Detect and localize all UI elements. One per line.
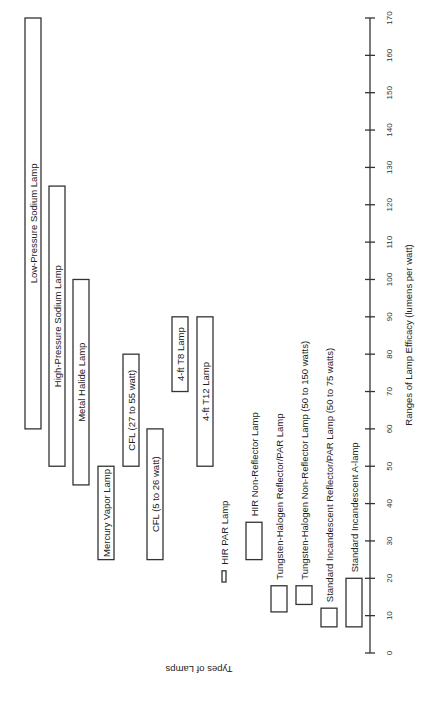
- bar-label: Tungsten-Halogen Reflector/PAR Lamp: [274, 413, 285, 579]
- range-bar: [321, 608, 337, 627]
- bar-label: Standard Incandescent Reflector/PAR Lamp…: [324, 348, 335, 602]
- tick-label: 70: [385, 387, 394, 396]
- tick-label: 130: [385, 160, 394, 174]
- category-axis-title: Types of Lamps: [165, 664, 232, 675]
- tick-label: 110: [385, 235, 394, 248]
- bar-label: CFL (27 to 55 watt): [126, 370, 137, 451]
- tick-label: 100: [385, 272, 394, 286]
- bar-label: Metal Halide Lamp: [76, 343, 87, 422]
- bar-label: High-Pressure Sodium Lamp: [52, 265, 63, 387]
- tick-label: 160: [385, 48, 394, 62]
- bar-label: Standard Incandescent A-lamp: [349, 442, 360, 572]
- bar-label: 4-ft T8 Lamp: [175, 327, 186, 381]
- bar-label: 4-ft T12 Lamp: [200, 362, 211, 421]
- bar-label: Mercury Vapor Lamp: [101, 469, 112, 557]
- tick-label: 0: [385, 650, 394, 655]
- range-bar: [271, 586, 287, 612]
- bars-group: [25, 18, 362, 627]
- value-axis-title: Ranges of Lamp Efficacy (lumens per watt…: [403, 244, 414, 425]
- tick-label: 120: [385, 198, 394, 212]
- bar-label: CFL (5 to 26 watt): [150, 456, 161, 532]
- bar-label: Tungsten-Halogen Non-Reflector Lamp (50 …: [299, 341, 310, 580]
- bar-label: HIR PAR Lamp: [219, 501, 230, 565]
- tick-label: 90: [385, 312, 394, 321]
- tick-label: 140: [385, 123, 394, 137]
- tick-label: 150: [385, 85, 394, 99]
- tick-label: 170: [385, 11, 394, 25]
- value-axis: 0102030405060708090100110120130140150160…: [365, 11, 394, 655]
- tick-label: 40: [385, 499, 394, 508]
- tick-label: 30: [385, 536, 394, 545]
- lamp-efficacy-chart: Low-Pressure Sodium LampHigh-Pressure So…: [0, 0, 425, 701]
- tick-label: 80: [385, 349, 394, 358]
- range-bar: [346, 578, 362, 627]
- bar-labels-group: Low-Pressure Sodium LampHigh-Pressure So…: [28, 164, 360, 603]
- range-bar: [246, 522, 262, 559]
- bar-label: Low-Pressure Sodium Lamp: [28, 164, 39, 284]
- tick-label: 10: [385, 611, 394, 620]
- bar-label: HIR Non-Reflector Lamp: [249, 412, 260, 516]
- range-bar: [222, 571, 226, 582]
- range-bar: [296, 586, 312, 605]
- tick-label: 20: [385, 573, 394, 582]
- tick-label: 60: [385, 424, 394, 433]
- tick-label: 50: [385, 461, 394, 470]
